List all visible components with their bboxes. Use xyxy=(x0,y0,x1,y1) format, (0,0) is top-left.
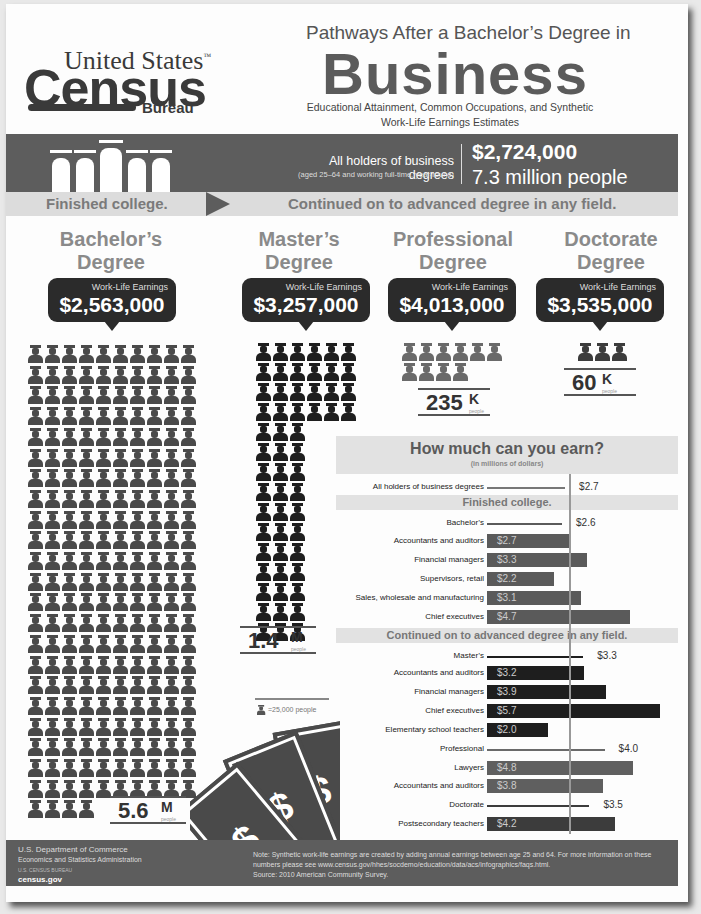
person-icon-head xyxy=(117,596,124,603)
person-icon-body xyxy=(181,479,196,487)
person-icon xyxy=(147,697,162,715)
person-icon xyxy=(147,407,162,425)
person-icon xyxy=(113,552,128,570)
person-icon-head xyxy=(277,346,284,353)
person-icon-body xyxy=(164,541,179,549)
person-icon-body xyxy=(45,748,60,756)
person-icon xyxy=(28,718,43,736)
degree-title-line2: Degree xyxy=(536,251,686,274)
person-icon xyxy=(307,363,322,381)
person-icon-head xyxy=(328,406,335,413)
person-icon xyxy=(130,573,145,591)
person-icon xyxy=(181,490,196,508)
person-icon-head xyxy=(100,721,107,728)
person-icon xyxy=(45,469,60,487)
person-icon-body xyxy=(578,353,593,361)
person-icon-body xyxy=(79,645,94,653)
person-icon xyxy=(62,531,77,549)
person-icon-head xyxy=(260,426,267,433)
person-icon-head xyxy=(134,638,141,645)
chart-bar[interactable]: $3.1 xyxy=(487,591,581,605)
person-icon-head xyxy=(66,700,73,707)
person-icon-body xyxy=(147,541,162,549)
person-icon-head xyxy=(260,526,267,533)
person-icon-head xyxy=(83,534,90,541)
person-icon xyxy=(113,490,128,508)
person-icon-body xyxy=(96,500,111,508)
person-icon-body xyxy=(96,769,111,777)
chart-line-mark[interactable] xyxy=(487,749,605,751)
person-icon xyxy=(181,635,196,653)
chart-line-mark[interactable] xyxy=(487,805,589,807)
chart-bar[interactable]: $4.2 xyxy=(487,817,615,831)
person-icon xyxy=(62,593,77,611)
person-icon-head xyxy=(294,406,301,413)
person-icon-body xyxy=(62,417,77,425)
person-icon xyxy=(307,343,322,361)
person-icon xyxy=(256,423,271,441)
person-icon-body xyxy=(96,666,111,674)
person-icon-head xyxy=(168,659,175,666)
degree-title-line1: Professional xyxy=(378,228,528,251)
person-icon xyxy=(256,343,271,361)
chart-line-mark[interactable] xyxy=(487,523,562,525)
chart-bar[interactable]: $2.0 xyxy=(487,723,548,737)
person-icon-head xyxy=(168,679,175,686)
person-icon-head xyxy=(66,555,73,562)
person-icon-body xyxy=(62,769,77,777)
person-icon xyxy=(79,759,94,777)
person-icon-head xyxy=(100,555,107,562)
person-icon xyxy=(96,718,111,736)
person-icon xyxy=(324,343,339,361)
person-icon-body xyxy=(113,666,128,674)
person-icon-head xyxy=(32,534,39,541)
person-icon-body xyxy=(130,748,145,756)
chart-bar[interactable]: $3.8 xyxy=(487,779,603,793)
person-icon xyxy=(181,573,196,591)
person-icon xyxy=(79,386,94,404)
person-icon-head xyxy=(151,659,158,666)
chart-line-mark[interactable] xyxy=(487,487,565,489)
person-icon xyxy=(290,503,305,521)
person-icon-head xyxy=(311,346,318,353)
chart-bar[interactable]: $5.7 xyxy=(487,704,660,718)
chart-bar[interactable]: $3.9 xyxy=(487,685,606,699)
person-icon-head xyxy=(277,386,284,393)
person-icon-body xyxy=(28,417,43,425)
person-icon-body xyxy=(45,603,60,611)
person-icon-body xyxy=(45,541,60,549)
person-icon-body xyxy=(290,493,305,501)
person-icon-body xyxy=(96,376,111,384)
person-icon-body xyxy=(181,624,196,632)
person-icon-head xyxy=(100,452,107,459)
chart-bar[interactable]: $4.7 xyxy=(487,610,630,624)
person-icon-head xyxy=(83,389,90,396)
person-icon-head xyxy=(32,493,39,500)
person-icon xyxy=(45,718,60,736)
chart-bar[interactable]: $4.8 xyxy=(487,761,633,775)
chart-bar[interactable]: $2.2 xyxy=(487,572,554,586)
person-icon-head xyxy=(151,783,158,790)
person-icon-head xyxy=(117,679,124,686)
earnings-amount: $4,013,000 xyxy=(388,293,516,317)
person-icon xyxy=(290,483,305,501)
person-icon-head xyxy=(260,566,267,573)
person-icon-head xyxy=(66,514,73,521)
person-icon-body xyxy=(147,748,162,756)
chart-bar[interactable]: $2.7 xyxy=(487,534,569,548)
chart-bar[interactable]: $3.3 xyxy=(487,553,587,567)
person-icon-body xyxy=(130,583,145,591)
person-icon-body xyxy=(79,769,94,777)
person-icon-head xyxy=(151,410,158,417)
person-icon-head xyxy=(117,721,124,728)
person-icon xyxy=(273,443,288,461)
person-icon-body xyxy=(419,353,434,361)
person-icon-head xyxy=(168,596,175,603)
footer-site-link[interactable]: census.gov xyxy=(18,875,142,885)
person-icon-head xyxy=(66,348,73,355)
person-icon-head xyxy=(66,617,73,624)
person-icon xyxy=(341,383,356,401)
person-icon xyxy=(113,759,128,777)
person-icon-head xyxy=(134,514,141,521)
person-icon-head xyxy=(185,659,192,666)
